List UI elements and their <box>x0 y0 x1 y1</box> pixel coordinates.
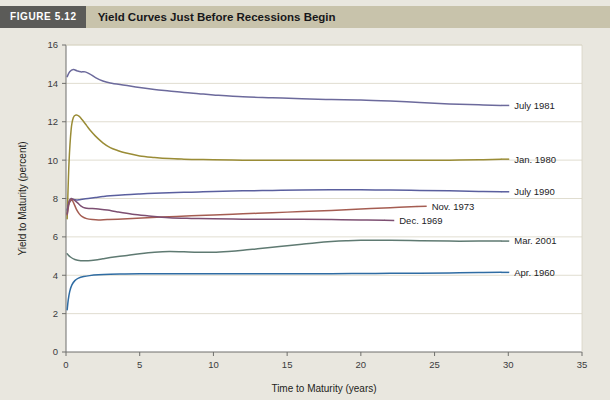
y-axis-title: Yield to Maturity (percent) <box>17 141 28 255</box>
x-tick-label-0: 0 <box>63 359 68 370</box>
series-label-july-1990: July 1990 <box>514 186 555 197</box>
y-tick-label-2: 2 <box>53 308 58 319</box>
y-tick-label-16: 16 <box>47 39 58 50</box>
y-tick-label-10: 10 <box>47 155 58 166</box>
series-label-july-1981: July 1981 <box>514 100 555 111</box>
series-label-dec-1969: Dec. 1969 <box>399 215 442 226</box>
yield-curve-chart: 0246810121416 05101520253035 July 1981Ja… <box>0 28 610 400</box>
series-label-jan-1980: Jan. 1980 <box>514 154 556 165</box>
series-label-mar-2001: Mar. 2001 <box>514 235 556 246</box>
x-tick-label-30: 30 <box>503 359 514 370</box>
y-tick-label-0: 0 <box>53 346 58 357</box>
figure-number-label: FIGURE 5.12 <box>0 6 86 28</box>
y-tick-label-6: 6 <box>53 231 58 242</box>
x-axis-ticks: 05101520253035 <box>63 352 587 370</box>
y-tick-label-4: 4 <box>53 270 58 281</box>
figure-title: Yield Curves Just Before Recessions Begi… <box>86 11 336 23</box>
figure-header-bar: FIGURE 5.12 Yield Curves Just Before Rec… <box>0 6 610 28</box>
y-axis-ticks: 0246810121416 <box>47 39 66 357</box>
x-tick-label-5: 5 <box>137 359 142 370</box>
y-tick-label-14: 14 <box>47 78 58 89</box>
x-tick-label-15: 15 <box>282 359 293 370</box>
x-tick-label-25: 25 <box>429 359 440 370</box>
y-tick-label-12: 12 <box>47 116 58 127</box>
x-tick-label-10: 10 <box>208 359 219 370</box>
chart-area: 0246810121416 05101520253035 July 1981Ja… <box>0 28 610 400</box>
x-tick-label-35: 35 <box>577 359 588 370</box>
figure-container: FIGURE 5.12 Yield Curves Just Before Rec… <box>0 0 610 400</box>
x-axis-title: Time to Maturity (years) <box>271 383 376 394</box>
y-tick-label-8: 8 <box>53 193 58 204</box>
series-label-nov-1973: Nov. 1973 <box>432 201 475 212</box>
x-tick-label-20: 20 <box>356 359 367 370</box>
series-label-apr-1960: Apr. 1960 <box>514 267 555 278</box>
